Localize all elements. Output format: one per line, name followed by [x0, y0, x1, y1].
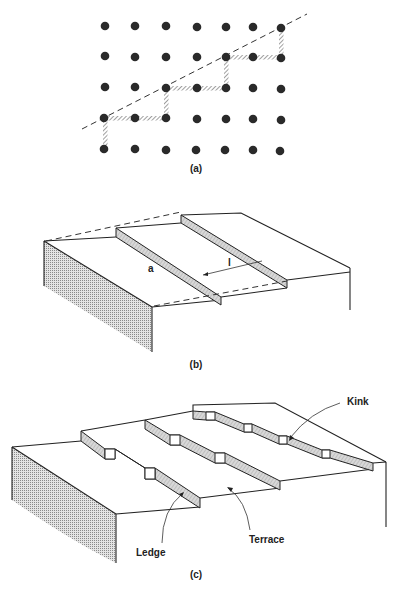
- cut-plane-line: [82, 14, 307, 129]
- label-ledge: Ledge: [136, 547, 166, 558]
- step-1-riser: [116, 228, 221, 305]
- panel-b-straight-steps: l a (b): [44, 212, 350, 370]
- kink-leader: [290, 403, 340, 438]
- side-face: [12, 447, 116, 563]
- caption-a: (a): [190, 163, 202, 174]
- label-terrace: Terrace: [249, 534, 285, 545]
- step-2-riser: [181, 215, 287, 288]
- figure-canvas: (a) l a (b): [0, 0, 399, 591]
- caption-c: (c): [190, 569, 202, 580]
- terrace-width-arrow: [203, 261, 262, 275]
- caption-b: (b): [190, 359, 203, 370]
- label-a: a: [148, 263, 154, 274]
- ledge-leader: [162, 493, 183, 543]
- label-kink: Kink: [347, 396, 369, 407]
- label-l: l: [228, 257, 231, 268]
- panel-a-lattice: (a): [82, 14, 307, 174]
- panel-c-kinked-steps: Kink Ledge Terrace (c): [12, 396, 386, 580]
